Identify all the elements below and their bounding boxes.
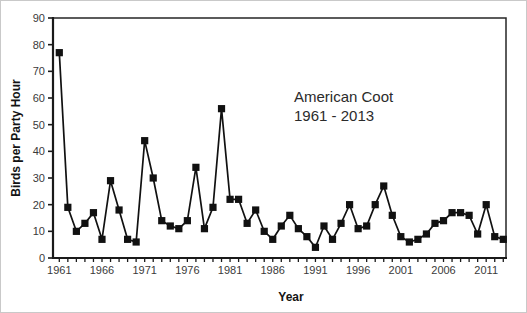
data-point-1993 [329,236,336,243]
chart-annotation: American Coot 1961 - 2013 [294,87,393,125]
data-point-1985 [261,228,268,235]
data-point-1998 [372,201,379,208]
data-point-1995 [346,201,353,208]
data-point-1994 [337,220,344,227]
chart-figure: 0102030405060708090196119661971197619811… [0,0,527,313]
data-point-2006 [440,217,447,224]
x-tick-label: 2001 [389,264,413,276]
data-point-1978 [201,225,208,232]
data-point-1966 [98,236,105,243]
data-point-1999 [380,182,387,189]
data-point-1967 [107,177,114,184]
data-point-1964 [81,220,88,227]
y-tick-label: 40 [33,145,45,157]
x-tick-label: 2011 [474,264,498,276]
data-point-1997 [363,222,370,229]
y-tick-label: 0 [39,252,45,264]
annotation-years: 1961 - 2013 [294,106,393,125]
data-point-1962 [64,204,71,211]
data-point-2012 [491,233,498,240]
data-point-1992 [320,222,327,229]
data-point-2013 [500,236,507,243]
data-point-1968 [115,206,122,213]
data-point-1989 [295,225,302,232]
data-point-1987 [278,222,285,229]
data-point-2003 [414,236,421,243]
data-point-2005 [431,220,438,227]
y-tick-label: 20 [33,199,45,211]
x-tick-label: 2006 [431,264,455,276]
data-point-1975 [175,225,182,232]
data-point-1991 [312,244,319,251]
data-point-1961 [56,49,63,56]
x-axis-title: Year [278,290,303,304]
data-point-1983 [244,220,251,227]
data-point-1990 [303,233,310,240]
data-point-2002 [406,238,413,245]
data-point-2004 [423,230,430,237]
data-point-2010 [474,230,481,237]
x-tick-label: 1991 [303,264,327,276]
data-point-1984 [252,206,259,213]
y-tick-label: 80 [33,39,45,51]
data-point-1972 [150,174,157,181]
x-tick-label: 1981 [218,264,242,276]
line-chart-canvas: 0102030405060708090196119661971197619811… [1,1,527,313]
x-tick-label: 1996 [346,264,370,276]
data-point-2008 [457,209,464,216]
data-point-1981 [226,196,233,203]
y-tick-label: 50 [33,119,45,131]
y-tick-label: 30 [33,172,45,184]
data-point-1971 [141,137,148,144]
data-point-1996 [355,225,362,232]
y-tick-label: 70 [33,65,45,77]
annotation-species: American Coot [294,87,393,106]
data-point-1963 [73,228,80,235]
data-point-1973 [158,217,165,224]
x-tick-label: 1986 [261,264,285,276]
y-tick-label: 60 [33,92,45,104]
data-point-1988 [286,212,293,219]
x-tick-label: 1966 [90,264,114,276]
y-axis-title: Birds per Party Hour [9,79,23,196]
data-point-2009 [466,212,473,219]
y-tick-label: 10 [33,225,45,237]
x-tick-label: 1971 [132,264,156,276]
data-point-2000 [389,212,396,219]
data-point-2011 [483,201,490,208]
data-point-1974 [167,222,174,229]
data-point-1986 [269,236,276,243]
data-point-1979 [209,204,216,211]
data-point-1982 [235,196,242,203]
data-point-1976 [184,217,191,224]
x-tick-label: 1976 [175,264,199,276]
data-point-1977 [192,164,199,171]
data-point-1969 [124,236,131,243]
y-tick-label: 90 [33,12,45,24]
data-point-2001 [397,233,404,240]
data-point-2007 [448,209,455,216]
x-tick-label: 1961 [47,264,71,276]
data-point-1980 [218,105,225,112]
data-point-1970 [133,238,140,245]
data-point-1965 [90,209,97,216]
